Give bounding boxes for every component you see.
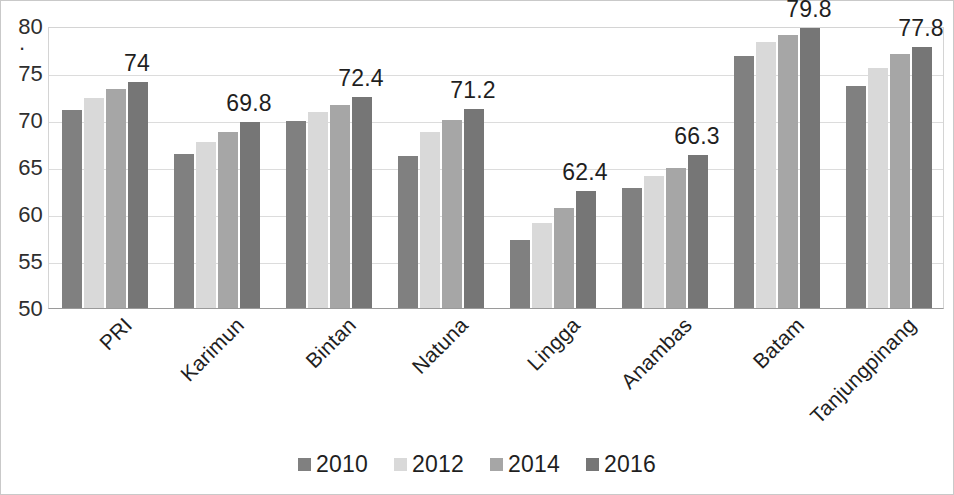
bar-lingga-2010[interactable] [510, 240, 530, 308]
value-label: 74 [124, 50, 150, 77]
legend-label: 2014 [508, 451, 560, 478]
bar-group [721, 28, 833, 308]
category-label-pri: PRI [95, 313, 137, 355]
bar-group [385, 28, 497, 308]
bars-layer [49, 28, 943, 308]
bar-pri-2014[interactable] [106, 89, 126, 308]
legend-label: 2012 [412, 451, 464, 478]
legend-item-2012[interactable]: 2012 [394, 451, 464, 478]
bar-bintan-2010[interactable] [286, 121, 306, 308]
bar-tanjungpinang-2010[interactable] [846, 86, 866, 308]
legend-swatch-icon [298, 458, 311, 471]
bar-pri-2010[interactable] [62, 110, 82, 308]
legend-label: 2010 [316, 451, 368, 478]
chart-legend: 2010201220142016 [1, 451, 953, 478]
legend-swatch-icon [394, 458, 407, 471]
bar-batam-2016[interactable] [800, 28, 820, 308]
value-label: 69.8 [226, 90, 272, 117]
category-label-lingga: Lingga [523, 313, 585, 375]
bar-tanjungpinang-2016[interactable] [912, 47, 932, 308]
legend-swatch-icon [490, 458, 503, 471]
bar-anambas-2016[interactable] [688, 155, 708, 308]
category-labels: PRIKarimunBintanNatunaLinggaAnambasBatam… [48, 313, 944, 443]
legend-item-2014[interactable]: 2014 [490, 451, 560, 478]
y-axis-tick-label: 70 [18, 108, 43, 134]
bar-lingga-2014[interactable] [554, 208, 574, 308]
y-axis-tick-label: 50 [18, 296, 43, 322]
value-label: 77.8 [898, 15, 944, 42]
bar-tanjungpinang-2012[interactable] [868, 68, 888, 308]
category-label-tanjungpinang: Tanjungpinang [806, 313, 921, 428]
category-label-natuna: Natuna [407, 313, 473, 379]
value-label: 66.3 [674, 123, 720, 150]
bar-batam-2010[interactable] [734, 56, 754, 308]
bar-anambas-2010[interactable] [622, 188, 642, 308]
bar-group [833, 28, 945, 308]
bar-pri-2012[interactable] [84, 98, 104, 308]
value-label: 62.4 [562, 159, 608, 186]
category-label-batam: Batam [748, 313, 809, 374]
bar-natuna-2010[interactable] [398, 156, 418, 308]
bar-bintan-2014[interactable] [330, 105, 350, 308]
category-label-karimun: Karimun [176, 313, 249, 386]
value-label: 79.8 [786, 0, 832, 23]
y-axis-tick-label: 75 [18, 61, 43, 87]
bar-group [609, 28, 721, 308]
bar-lingga-2012[interactable] [532, 223, 552, 308]
value-label: 71.2 [450, 77, 496, 104]
value-label: 72.4 [338, 65, 384, 92]
legend-swatch-icon [586, 458, 599, 471]
y-axis-tick-label: 55 [18, 249, 43, 275]
bar-karimun-2010[interactable] [174, 154, 194, 308]
bar-group [161, 28, 273, 308]
category-label-anambas: Anambas [616, 313, 697, 394]
bar-anambas-2014[interactable] [666, 168, 686, 308]
y-axis: 50556065707580. [1, 1, 47, 331]
plot-area [48, 27, 944, 309]
bar-natuna-2012[interactable] [420, 132, 440, 308]
bar-bintan-2012[interactable] [308, 112, 328, 308]
category-label-bintan: Bintan [301, 313, 361, 373]
bar-batam-2012[interactable] [756, 42, 776, 308]
bar-natuna-2016[interactable] [464, 109, 484, 308]
bar-karimun-2014[interactable] [218, 132, 238, 308]
legend-item-2016[interactable]: 2016 [586, 451, 656, 478]
bar-pri-2016[interactable] [128, 82, 148, 308]
chart-figure: 50556065707580. 7469.872.471.262.466.379… [0, 0, 954, 495]
bar-karimun-2016[interactable] [240, 122, 260, 308]
bar-batam-2014[interactable] [778, 35, 798, 308]
legend-item-2010[interactable]: 2010 [298, 451, 368, 478]
bar-bintan-2016[interactable] [352, 97, 372, 308]
y-axis-tick-label: 60 [18, 202, 43, 228]
bar-lingga-2016[interactable] [576, 191, 596, 308]
bar-anambas-2012[interactable] [644, 176, 664, 308]
bar-karimun-2012[interactable] [196, 142, 216, 308]
y-axis-tick-label: 65 [18, 155, 43, 181]
bar-natuna-2014[interactable] [442, 120, 462, 308]
legend-label: 2016 [604, 451, 656, 478]
bar-tanjungpinang-2014[interactable] [890, 54, 910, 308]
